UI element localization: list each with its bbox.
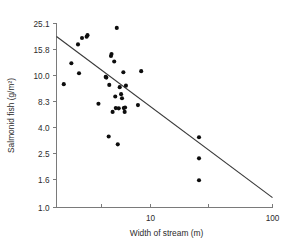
data-point: [123, 110, 127, 114]
y-axis-title: Salmonid fish (g/m²): [6, 78, 16, 153]
data-point: [109, 52, 113, 56]
data-point: [121, 70, 125, 74]
y-tick-label: 2.5: [38, 150, 50, 159]
y-tick-label: 10.0: [34, 72, 50, 81]
y-tick-label: 8.3: [38, 98, 50, 107]
data-point: [62, 82, 66, 86]
data-point: [112, 59, 116, 63]
data-point: [115, 26, 119, 30]
data-point: [117, 106, 121, 110]
data-point: [120, 96, 124, 100]
y-tick-label: 1.6: [38, 176, 50, 185]
data-point: [118, 85, 122, 89]
data-point: [197, 135, 201, 139]
y-tick-label: 15.8: [34, 46, 50, 55]
regression-line: [57, 37, 273, 198]
data-point: [139, 69, 143, 73]
x-tick-label: 100: [266, 214, 280, 223]
data-point: [123, 106, 127, 110]
data-point: [69, 61, 73, 65]
y-tick-label: 25.1: [34, 20, 50, 29]
data-point: [197, 178, 201, 182]
data-point: [119, 92, 123, 96]
axes-group: [57, 24, 273, 208]
x-tick-label: 10: [146, 214, 156, 223]
data-point: [77, 71, 81, 75]
data-point: [111, 110, 115, 114]
data-point: [113, 95, 117, 99]
data-point: [96, 102, 100, 106]
x-tick-group: 10100: [57, 204, 280, 223]
data-point: [85, 33, 89, 37]
y-tick-label: 4.0: [38, 124, 50, 133]
data-point: [104, 76, 108, 80]
plot-canvas: 25.115.810.08.34.02.51.61.010100Width of…: [0, 0, 283, 252]
data-point: [80, 36, 84, 40]
data-point: [76, 42, 80, 46]
data-point: [136, 103, 140, 107]
data-point: [124, 84, 128, 88]
data-point-group: [62, 26, 201, 182]
x-axis-title: Width of stream (m): [130, 228, 204, 238]
data-point: [107, 83, 111, 87]
y-tick-label: 1.0: [38, 204, 50, 213]
data-point: [116, 142, 120, 146]
scatter-plot-figure: 25.115.810.08.34.02.51.61.010100Width of…: [0, 0, 283, 252]
data-point: [107, 134, 111, 138]
data-point: [197, 156, 201, 160]
y-tick-group: 25.115.810.08.34.02.51.61.0: [34, 20, 57, 213]
